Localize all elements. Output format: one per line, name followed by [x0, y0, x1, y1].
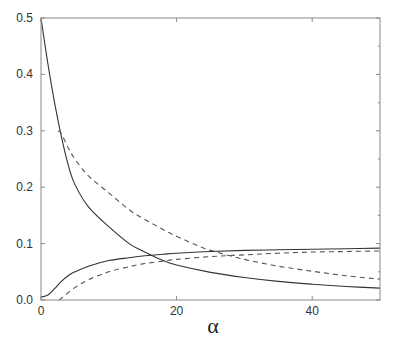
y-tick-label: 0.2 — [16, 180, 33, 194]
chart: 0.00.10.20.30.40.502040 α — [0, 0, 393, 342]
y-tick-label: 0.0 — [16, 293, 33, 307]
y-tick-label: 0.5 — [16, 11, 33, 25]
chart-background — [0, 0, 393, 342]
y-tick-label: 0.3 — [16, 124, 33, 138]
y-tick-label: 0.4 — [16, 67, 33, 81]
x-axis-label: α — [207, 313, 219, 338]
x-tick-label: 20 — [170, 304, 184, 318]
y-tick-label: 0.1 — [16, 237, 33, 251]
x-tick-label: 0 — [38, 304, 45, 318]
x-tick-label: 40 — [306, 304, 320, 318]
